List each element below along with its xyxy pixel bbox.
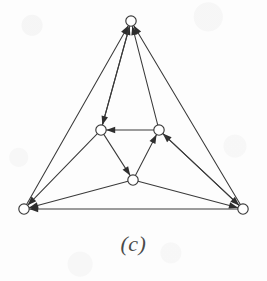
graph-node-left-mid <box>96 125 106 135</box>
graph-node-right-mid <box>154 125 164 135</box>
edge-arrowhead <box>150 135 157 145</box>
edge-line <box>134 25 241 204</box>
graph-edge <box>131 26 157 125</box>
graph-edge <box>29 206 238 213</box>
edge-arrowhead <box>106 127 115 134</box>
edge-arrowhead <box>102 115 108 125</box>
graph-edge <box>163 134 239 206</box>
graph-node-bottom-right <box>238 204 248 214</box>
figure-container: (c) <box>0 0 267 281</box>
graph-edge <box>135 135 156 176</box>
graph-edge <box>138 181 238 208</box>
graph-edge <box>29 181 128 208</box>
graph-edge <box>102 26 130 125</box>
graph-edge <box>28 134 98 206</box>
graph-edge <box>104 134 130 175</box>
edge-line <box>102 26 129 125</box>
edge-line <box>27 26 129 205</box>
graph-edge <box>106 127 154 134</box>
edge-line <box>163 134 239 206</box>
edge-line <box>29 181 128 207</box>
edge-arrowhead <box>123 166 131 175</box>
graph-edge <box>27 26 129 205</box>
graph-node-top <box>126 16 136 26</box>
graph-node-bottom-left <box>19 204 29 214</box>
edge-line <box>28 134 98 206</box>
nodes-layer <box>19 16 248 214</box>
edge-line <box>138 181 238 207</box>
graph-node-bottom-mid <box>128 175 138 185</box>
graph-edge <box>134 25 241 204</box>
edge-line <box>132 26 157 125</box>
figure-caption: (c) <box>0 231 267 257</box>
